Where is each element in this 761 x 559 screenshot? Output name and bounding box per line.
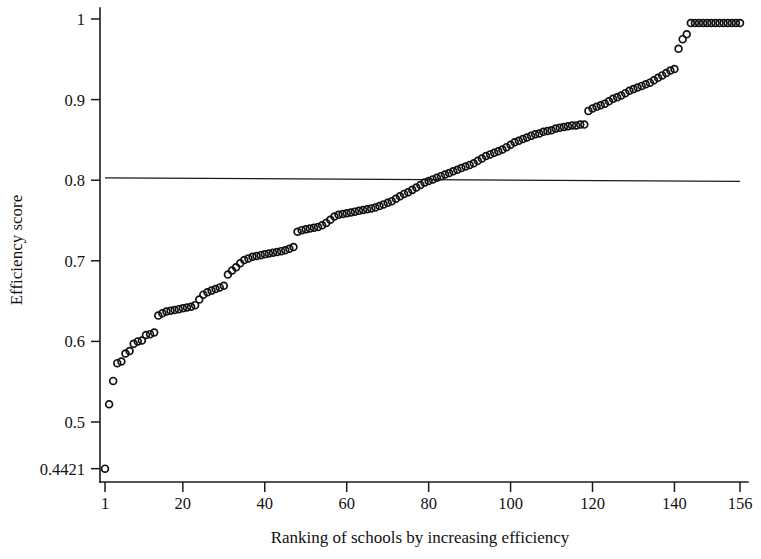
chart-canvas: 0.44210.50.60.70.80.91 12040608010012014… [0,0,761,559]
y-axis-tick-label: 0.8 [64,171,85,190]
x-axis-title: Ranking of schools by increasing efficie… [271,528,570,547]
data-point [675,45,682,52]
x-axis-tick-label: 120 [580,494,605,513]
x-axis-tick-label: 1 [101,494,109,513]
y-axis-tick-label: 0.4421 [40,460,85,479]
x-axis-tick-label: 20 [175,494,192,513]
data-point [102,465,109,472]
data-point [110,377,117,384]
y-axis-tick-label: 1 [77,10,85,29]
x-axis-tick-label: 60 [338,494,355,513]
y-axis-tick-label: 0.9 [64,91,85,110]
x-axis-tick-label: 140 [662,494,687,513]
data-point [225,271,232,278]
y-axis-title: Efficiency score [7,195,26,306]
x-axis-tick-label: 40 [257,494,274,513]
x-axis: 120406080100120140156 [100,482,752,513]
y-axis-tick-label: 0.6 [64,332,85,351]
x-axis-tick-label: 100 [498,494,523,513]
x-axis-tick-label: 80 [420,494,437,513]
y-axis: 0.44210.50.60.70.80.91 [40,8,100,482]
y-axis-tick-label: 0.5 [64,413,85,432]
x-axis-tick-label: 156 [728,494,753,513]
data-point-series [102,20,744,472]
data-point [106,401,113,408]
y-axis-tick-label: 0.7 [64,252,85,271]
efficiency-score-chart-figure: 0.44210.50.60.70.80.91 12040608010012014… [0,0,761,559]
data-point [683,31,690,38]
